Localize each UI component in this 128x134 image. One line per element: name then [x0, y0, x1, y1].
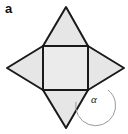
triangle-right: [88, 46, 124, 90]
angle-label: α: [91, 93, 97, 105]
figure-panel: a α: [0, 0, 128, 134]
center-square: [43, 46, 88, 90]
triangle-bottom: [43, 90, 88, 128]
triangle-top: [43, 7, 88, 46]
triangle-left: [7, 46, 43, 90]
square-net-diagram: α: [0, 0, 128, 134]
